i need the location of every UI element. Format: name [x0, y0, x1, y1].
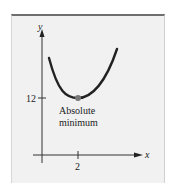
annotation-line-1: Absolute — [59, 105, 96, 116]
function-curve — [49, 49, 117, 98]
annotation-line-2: minimum — [59, 117, 98, 128]
y-tick-label-12: 12 — [26, 93, 36, 104]
x-axis-arrow-icon — [134, 153, 143, 158]
absolute-minimum-point — [75, 95, 81, 101]
x-tick-label-2: 2 — [75, 161, 80, 172]
x-axis-label: x — [144, 149, 150, 160]
chart: y x 2 12 Absolute minimum — [0, 0, 175, 183]
y-axis-label: y — [37, 21, 43, 32]
